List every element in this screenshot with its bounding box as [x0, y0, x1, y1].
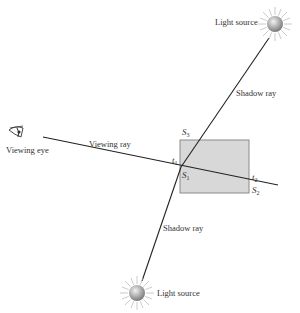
shadow-ray-bottom-label: Shadow ray: [163, 223, 204, 233]
viewing-ray-label: Viewing ray: [89, 139, 131, 149]
sun-icon: [120, 276, 154, 310]
t1-label: t1: [172, 155, 178, 166]
light-source-top-label: Light source: [215, 17, 258, 27]
t2-label: t2: [252, 172, 258, 183]
ray-tracing-diagram: Light source Shadow ray Viewing ray View…: [0, 0, 300, 313]
eye-icon: [9, 126, 23, 137]
sun-icon: [258, 7, 292, 41]
s3-label: S3: [182, 127, 190, 138]
shadow-ray-top-label: Shadow ray: [236, 88, 277, 98]
s2-label: S2: [252, 185, 260, 196]
viewing-eye-label: Viewing eye: [6, 145, 49, 155]
object-rectangle: [180, 140, 249, 193]
light-source-bottom-label: Light source: [157, 288, 200, 298]
